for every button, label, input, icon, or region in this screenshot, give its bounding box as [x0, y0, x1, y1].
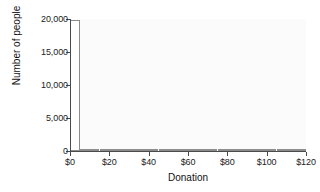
y-axis-line: [70, 19, 71, 152]
y-tick-label: 5,000: [46, 113, 68, 123]
y-tick-label: 0: [63, 146, 68, 156]
x-tick-label: $120: [296, 157, 316, 167]
y-axis-title: Number of people: [11, 0, 22, 106]
x-tick-label: $40: [141, 157, 156, 167]
y-tick-label: 10,000: [41, 80, 68, 90]
x-axis-title: Donation: [70, 172, 306, 183]
x-tick-mark: [149, 152, 150, 156]
x-tick-label: $60: [181, 157, 196, 167]
x-tick-label: $80: [220, 157, 235, 167]
x-tick-mark: [70, 152, 71, 156]
x-tick-label: $20: [102, 157, 117, 167]
x-tick-label: $100: [257, 157, 277, 167]
bars-layer: [70, 19, 306, 151]
x-tick-mark: [109, 152, 110, 156]
histogram-chart: 05,00010,00015,00020,000 $0$20$40$60$80$…: [0, 0, 320, 192]
y-tick-label: 20,000: [41, 14, 68, 24]
histogram-bar: [70, 20, 80, 151]
x-tick-label: $0: [65, 157, 75, 167]
y-tick-label: 15,000: [41, 47, 68, 57]
x-tick-mark: [306, 152, 307, 156]
x-tick-mark: [267, 152, 268, 156]
x-tick-mark: [227, 152, 228, 156]
x-tick-mark: [188, 152, 189, 156]
